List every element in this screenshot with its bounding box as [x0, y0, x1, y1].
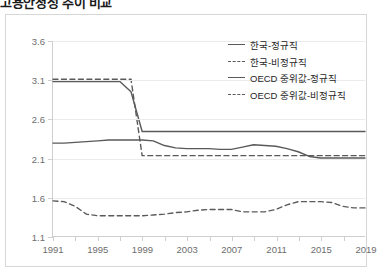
legend-label: OECD 중위값-비정규직 [250, 88, 346, 102]
x-axis-tick [366, 236, 367, 241]
y-axis-label: 2.1 [32, 153, 45, 164]
x-axis-tick [210, 236, 211, 241]
dashed-line-swatch-icon [228, 90, 245, 100]
x-axis-tick [232, 236, 233, 241]
x-axis-label: 2003 [177, 244, 198, 255]
legend-item-korea-regular: 한국-정규직 [228, 37, 368, 54]
x-axis-tick [98, 236, 99, 241]
solid-line-swatch-icon [228, 73, 245, 83]
x-axis-label: 1999 [132, 244, 153, 255]
y-axis-tick [48, 198, 53, 199]
x-axis-tick [142, 236, 143, 241]
figure-border: 1.11.62.12.63.13.61991199519992003200720… [5, 14, 367, 267]
x-axis-label: 2011 [266, 244, 286, 255]
y-gridline [53, 159, 365, 160]
y-axis-label: 3.1 [32, 75, 45, 86]
x-axis-tick [321, 236, 322, 241]
y-axis-tick [48, 159, 53, 160]
legend-label: OECD 중위값-정규직 [250, 71, 337, 85]
y-axis-label: 1.1 [32, 232, 45, 243]
x-axis-label: 2019 [355, 244, 376, 255]
x-axis-tick [53, 236, 54, 241]
x-axis-tick [344, 236, 345, 241]
x-axis-label: 2007 [221, 244, 242, 255]
y-axis-label: 2.6 [32, 114, 45, 125]
legend-label: 한국-정규직 [250, 38, 298, 52]
solid-line-swatch-icon [228, 40, 245, 50]
x-axis-label: 1995 [87, 244, 108, 255]
x-axis-tick [165, 236, 166, 241]
x-axis-tick [254, 236, 255, 241]
legend-label: 한국-비정규직 [250, 55, 307, 69]
y-gridline [53, 119, 365, 120]
legend-item-korea-nonregular: 한국-비정규직 [228, 54, 368, 71]
x-axis-tick [299, 236, 300, 241]
x-axis-label: 2015 [311, 244, 332, 255]
legend-item-oecd-regular: OECD 중위값-정규직 [228, 70, 368, 87]
y-gridline [53, 198, 365, 199]
y-axis-label: 3.6 [32, 36, 45, 47]
y-axis-tick [48, 41, 53, 42]
y-axis-label: 1.6 [32, 192, 45, 203]
x-axis-tick [75, 236, 76, 241]
series-line [53, 201, 365, 216]
x-axis-tick [187, 236, 188, 241]
x-axis-label: 1991 [42, 244, 63, 255]
y-axis-tick [48, 119, 53, 120]
figure-title: 고용안정성 추이 비교 [0, 0, 373, 10]
chart-legend: 한국-정규직 한국-비정규직 OECD 중위값-정규직 OECD 중위값-비정규… [228, 37, 368, 103]
x-axis-tick [120, 236, 121, 241]
legend-item-oecd-nonregular: OECD 중위값-비정규직 [228, 87, 368, 104]
dashed-line-swatch-icon [228, 57, 245, 67]
y-axis-tick [48, 80, 53, 81]
x-axis-tick [277, 236, 278, 241]
